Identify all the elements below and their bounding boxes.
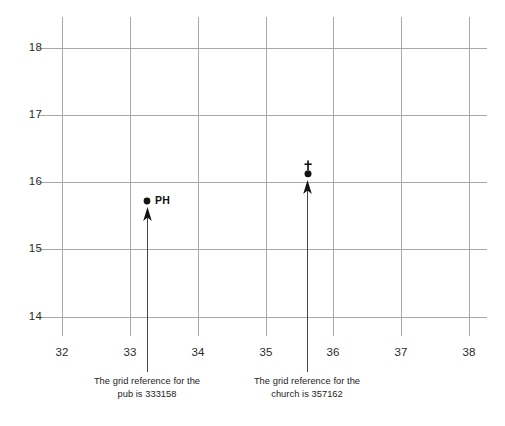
pub-caption-line2: pub is 333158 [67,388,227,401]
church-cross-vertical-icon [307,161,309,171]
xtick-label-36: 36 [318,347,348,359]
pub-point-marker [144,198,151,205]
pub-grid-reference-value: 333158 [145,389,176,399]
ytick-label-14: 14 [16,311,42,323]
church-dot-icon [305,170,312,177]
pub-caption-line2-prefix: pub is [117,389,145,399]
xtick-label-34: 34 [183,347,213,359]
xtick-label-32: 32 [47,347,77,359]
church-leader [303,180,312,372]
ytick-label-15: 15 [16,243,42,255]
xtick-label-33: 33 [115,347,145,359]
xtick-label-38: 38 [454,347,484,359]
church-caption-line2: church is 357162 [227,388,387,401]
plot-canvas [0,0,505,426]
vertical-gridlines [63,17,470,336]
church-cross-horizontal-icon [305,163,312,165]
xtick-label-37: 37 [386,347,416,359]
grid-reference-figure: 18 17 16 15 14 32 33 34 35 36 37 38 PH T… [0,0,505,426]
church-grid-reference-value: 357162 [311,389,342,399]
pub-caption: The grid reference for the pub is 333158 [67,375,227,402]
pub-point-label: PH [155,195,170,206]
church-caption-line1: The grid reference for the [227,375,387,388]
church-caption: The grid reference for the church is 357… [227,375,387,402]
horizontal-gridlines [38,49,487,318]
ytick-label-18: 18 [16,42,42,54]
ytick-label-17: 17 [16,109,42,121]
church-caption-line2-prefix: church is [271,389,311,399]
ytick-label-16: 16 [16,176,42,188]
xtick-label-35: 35 [251,347,281,359]
pub-caption-line1: The grid reference for the [67,375,227,388]
church-point-marker [305,161,312,178]
